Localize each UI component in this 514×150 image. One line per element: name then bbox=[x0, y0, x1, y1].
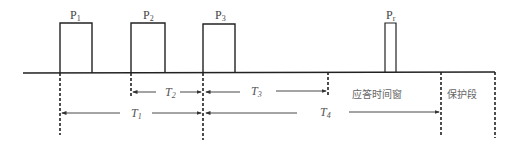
pulse-p1-label: P1 bbox=[70, 8, 81, 23]
interval-t3: T3 bbox=[206, 84, 326, 99]
guard-segment-label: 保护段 bbox=[447, 88, 477, 100]
interval-t1: T1 bbox=[62, 106, 201, 121]
pulse-p3-label: P3 bbox=[215, 8, 226, 23]
time-markers bbox=[60, 72, 495, 140]
pulse-p2-label: P2 bbox=[143, 8, 154, 23]
time-axis bbox=[23, 72, 495, 73]
pulse-p2: P2 bbox=[131, 8, 165, 73]
pulse-p3: P3 bbox=[203, 8, 235, 73]
pulse-timing-diagram: P1 P2 P3 Pr T2 T3 T1 T bbox=[0, 0, 514, 150]
response-window-label: 应答时间窗 bbox=[352, 88, 402, 100]
interval-t1-label: T1 bbox=[131, 106, 142, 121]
interval-t3-label: T3 bbox=[251, 84, 262, 99]
interval-t2-label: T2 bbox=[165, 85, 176, 100]
interval-t4: T4 bbox=[206, 105, 439, 120]
pulse-p1: P1 bbox=[60, 8, 92, 73]
pulse-pr: Pr bbox=[385, 8, 396, 72]
interval-t2: T2 bbox=[133, 85, 201, 100]
pulse-pr-label: Pr bbox=[386, 8, 396, 23]
interval-t4-label: T4 bbox=[320, 105, 331, 120]
